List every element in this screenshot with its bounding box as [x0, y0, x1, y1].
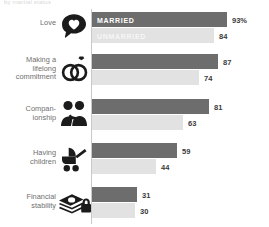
bar-married	[92, 54, 218, 69]
bar-unmarried	[92, 70, 199, 85]
couple-icon	[57, 97, 91, 131]
value-married: 31	[142, 190, 150, 199]
bar-married	[92, 143, 177, 158]
category-label: Financial stability	[0, 193, 56, 210]
bar-unmarried	[92, 115, 183, 130]
category-label: Love	[0, 19, 56, 28]
category-label: Making a lifelong commitment	[0, 56, 56, 82]
value-unmarried: 74	[204, 73, 212, 82]
bar-unmarried	[92, 203, 135, 218]
chart-row: Compan- ionship 81 63	[0, 97, 269, 133]
chart-row: Having children 59 44	[0, 141, 269, 177]
value-unmarried: 63	[188, 118, 196, 127]
bar-married	[92, 187, 137, 202]
money-lock-icon	[57, 186, 91, 220]
chart-row: Making a lifelong commitment 87 74	[0, 52, 269, 88]
legend-married-label: MARRIED	[97, 16, 135, 23]
bar-married: MARRIED	[92, 12, 227, 27]
value-married: 81	[214, 102, 222, 111]
value-unmarried: 30	[140, 206, 148, 215]
bar-unmarried	[92, 159, 156, 174]
wedding-rings-icon	[57, 53, 91, 87]
category-label: Having children	[0, 149, 56, 166]
stroller-icon	[57, 142, 91, 176]
bar-chart: by martial status Love MARRIED 93% UNMAR…	[0, 0, 269, 227]
chart-title-fragment: by martial status	[4, 0, 51, 6]
value-married: 93%	[232, 15, 247, 24]
bar-married	[92, 99, 209, 114]
heart-speech-bubble-icon	[57, 10, 91, 44]
chart-row: Love MARRIED 93% UNMARRIED 84	[0, 10, 269, 46]
value-unmarried: 44	[161, 162, 169, 171]
chart-row: Financial stability 31 30	[0, 185, 269, 221]
value-married: 87	[223, 57, 231, 66]
legend-unmarried-label: UNMARRIED	[97, 32, 146, 39]
value-married: 59	[182, 146, 190, 155]
value-unmarried: 84	[219, 31, 227, 40]
bar-unmarried: UNMARRIED	[92, 28, 214, 43]
category-label: Compan- ionship	[0, 105, 56, 122]
